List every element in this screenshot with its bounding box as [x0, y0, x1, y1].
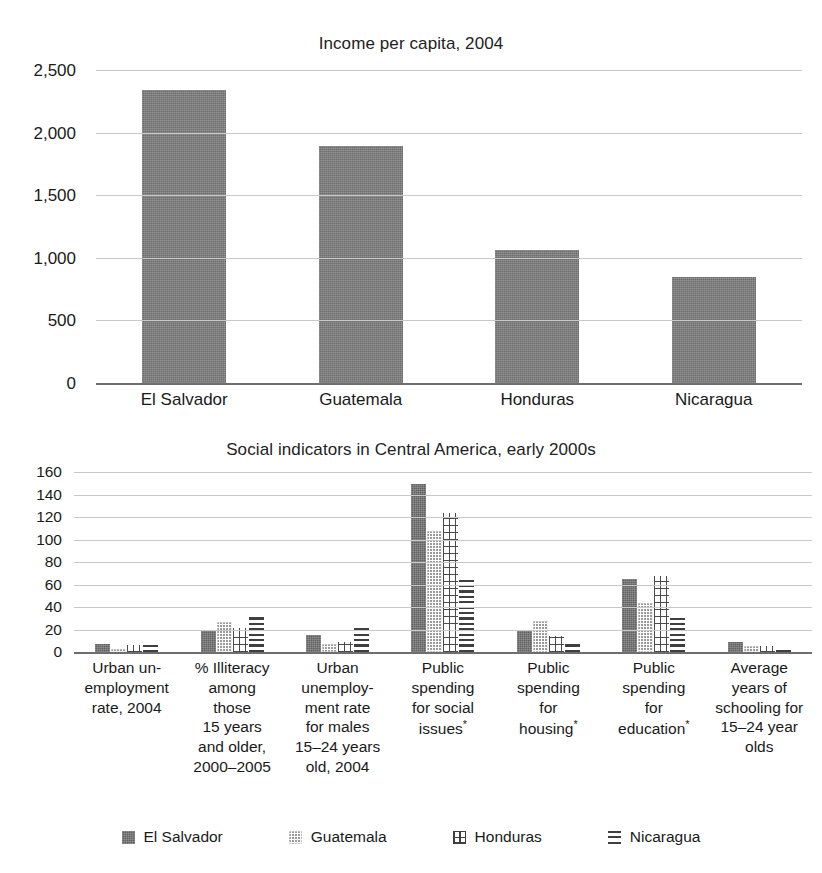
legend-label: Honduras — [475, 828, 542, 846]
bottom-x-label-line: old, 2004 — [286, 757, 389, 777]
bottom-bar-el-salvador — [517, 631, 532, 652]
bottom-gridline — [74, 540, 812, 541]
bottom-y-tick-label: 120 — [2, 509, 62, 525]
top-bar-honduras — [495, 250, 579, 383]
top-x-label: Guatemala — [273, 390, 450, 410]
bottom-bar-nicaragua — [459, 577, 474, 652]
top-x-label: El Salvador — [96, 390, 273, 410]
legend-item-el-salvador: El Salvador — [122, 828, 223, 846]
bottom-x-label-line: 15 years — [180, 717, 283, 737]
bottom-bar-el-salvador — [622, 579, 637, 652]
bottom-x-label-line: 2000–2005 — [180, 757, 283, 777]
top-y-tick-label: 500 — [0, 312, 76, 329]
dotted-square-swatch — [289, 831, 302, 844]
top-bar-column — [96, 70, 273, 383]
bottom-gridline — [74, 562, 812, 563]
bottom-bar-guatemala — [533, 621, 548, 653]
bottom-bar-guatemala — [638, 603, 653, 653]
bottom-x-label-line: Average — [708, 658, 811, 678]
bottom-x-label: Publicspendingforeducation* — [601, 658, 706, 777]
bottom-bar-el-salvador — [95, 644, 110, 652]
bottom-y-tick-label: 100 — [2, 532, 62, 548]
top-bar-nicaragua — [672, 277, 756, 383]
bottom-x-label-line: Public — [391, 658, 494, 678]
legend-label: Guatemala — [311, 828, 387, 846]
legend-item-guatemala: Guatemala — [289, 828, 387, 846]
bottom-bar-honduras — [443, 513, 458, 653]
bottom-x-label-line: for — [497, 698, 600, 718]
bottom-x-label-line: for — [602, 698, 705, 718]
top-x-label: Nicaragua — [626, 390, 803, 410]
bottom-bar-honduras — [233, 628, 248, 652]
top-gridline — [96, 258, 802, 259]
bottom-x-label-line: olds — [708, 737, 811, 757]
top-bar-column — [449, 70, 626, 383]
legend-label: Nicaragua — [630, 828, 701, 846]
bottom-bar-honduras — [654, 576, 669, 653]
bottom-x-label: Urban un-employmentrate, 2004 — [74, 658, 179, 777]
bottom-bar-honduras — [338, 642, 353, 652]
bottom-x-label-line: Public — [602, 658, 705, 678]
top-bars — [96, 70, 802, 383]
legend-item-honduras: Honduras — [453, 828, 542, 846]
top-bar-guatemala — [319, 146, 403, 383]
footnote-asterisk: * — [573, 718, 577, 730]
top-y-tick-label: 2,500 — [0, 62, 76, 79]
bottom-bar-nicaragua — [565, 642, 580, 652]
bottom-gridline — [74, 472, 812, 473]
legend-label: El Salvador — [144, 828, 223, 846]
bottom-x-label-line: for social — [391, 698, 494, 718]
bottom-bar-guatemala — [217, 622, 232, 652]
top-bar-el-salvador — [142, 90, 226, 383]
bottom-x-label-line: for males — [286, 717, 389, 737]
bottom-bar-honduras — [127, 645, 142, 652]
bottom-x-label-line: ment rate — [286, 698, 389, 718]
bottom-y-tick-label: 140 — [2, 487, 62, 503]
top-axis-line — [96, 383, 802, 385]
bottom-x-label: Publicspendingfor socialissues* — [390, 658, 495, 777]
bottom-plot-area — [74, 472, 812, 652]
bottom-x-label-line: employment — [75, 678, 178, 698]
footnote-asterisk: * — [685, 718, 689, 730]
bottom-x-label: % Illiteracyamongthose15 yearsand older,… — [179, 658, 284, 777]
bottom-x-label-line: spending — [391, 678, 494, 698]
bottom-bar-guatemala — [322, 644, 337, 652]
top-bar-column — [626, 70, 803, 383]
top-chart-title: Income per capita, 2004 — [0, 34, 822, 54]
bottom-x-label-line: spending — [497, 678, 600, 698]
bottom-x-label-line: 15–24 years — [286, 737, 389, 757]
bottom-x-label: Publicspendingforhousing* — [496, 658, 601, 777]
bottom-bar-nicaragua — [354, 628, 369, 652]
bottom-bar-el-salvador — [201, 631, 216, 652]
social-indicators-chart: Social indicators in Central America, ea… — [0, 440, 822, 802]
bottom-bar-el-salvador — [411, 484, 426, 652]
bottom-x-label-line: Urban — [286, 658, 389, 678]
top-gridline — [96, 320, 802, 321]
legend-item-nicaragua: Nicaragua — [608, 828, 701, 846]
bottom-y-tick-label: 20 — [2, 622, 62, 638]
bottom-y-tick-label: 160 — [2, 464, 62, 480]
bottom-gridline — [74, 495, 812, 496]
bottom-axis-line — [74, 652, 812, 654]
bottom-x-label-line: schooling for — [708, 698, 811, 718]
bottom-x-label-line: years of — [708, 678, 811, 698]
bottom-bar-el-salvador — [728, 642, 743, 652]
top-y-tick-label: 2,000 — [0, 124, 76, 141]
footnote-asterisk: * — [463, 718, 467, 730]
bottom-x-label-line: 15–24 year — [708, 717, 811, 737]
income-per-capita-chart: Income per capita, 2004 2,5002,0001,5001… — [0, 34, 822, 410]
bottom-y-tick-label: 60 — [2, 577, 62, 593]
bottom-x-axis-labels: Urban un-employmentrate, 2004% Illiterac… — [74, 658, 812, 777]
bottom-x-label-line: Urban un- — [75, 658, 178, 678]
top-y-tick-label: 1,000 — [0, 249, 76, 266]
bottom-x-label-line: among — [180, 678, 283, 698]
top-gridline — [96, 133, 802, 134]
bottom-x-label-line: those — [180, 698, 283, 718]
bottom-x-label-line: Public — [497, 658, 600, 678]
bottom-bar-nicaragua — [143, 645, 158, 652]
top-y-tick-label: 1,500 — [0, 187, 76, 204]
top-bar-column — [273, 70, 450, 383]
bottom-x-label-line: % Illiteracy — [180, 658, 283, 678]
chart-legend: El SalvadorGuatemalaHondurasNicaragua — [0, 828, 822, 846]
bottom-x-label-line: and older, — [180, 737, 283, 757]
